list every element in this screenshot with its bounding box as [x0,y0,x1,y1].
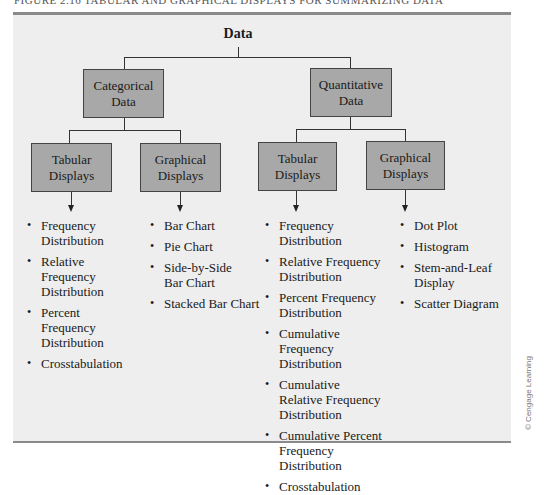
node-label: Data [94,94,154,110]
connector [296,191,297,206]
node-label: Displays [380,166,431,182]
connector [180,130,181,143]
node-quantitative-tabular-displays: TabularDisplays [258,142,337,191]
quantitative-tabular-list: Frequency Distribution Relative Frequenc… [263,218,383,495]
node-categorical-graphical-displays: GraphicalDisplays [140,143,221,192]
connector [405,190,406,206]
connector [69,130,181,131]
arrow-down-icon [293,205,299,212]
connector [238,47,239,57]
connector [180,192,181,206]
node-label: Graphical [155,152,206,168]
quantitative-graphical-list: Dot Plot Histogram Stem-and-Leaf Display… [398,218,523,317]
connector [296,129,406,130]
list-item: Dot Plot [398,218,523,233]
node-label: Displays [275,167,321,183]
node-categorical-tabular-displays: TabularDisplays [31,143,112,192]
list-item: Cumulative Percent Frequency Distributio… [263,428,383,473]
connector [124,118,125,130]
list-item: Cumulative Frequency Distribution [263,326,383,371]
node-categorical-data: CategoricalData [83,69,164,118]
node-label: Displays [155,168,206,184]
node-label: Categorical [94,78,154,94]
connector [124,57,125,69]
root-node-data: Data [0,26,476,42]
credit-text: © Cengage Learning [524,356,533,430]
node-label: Displays [49,168,95,184]
list-item: Crosstabulation [25,356,135,371]
figure-caption: FIGURE 2.16 TABULAR AND GRAPHICAL DISPLA… [14,0,443,6]
node-label: Graphical [380,150,431,166]
node-label: Quantitative [319,77,383,93]
list-item: Percent Frequency Distribution [263,290,383,320]
arrow-down-icon [68,205,74,212]
connector [296,129,297,142]
connector [405,129,406,141]
categorical-graphical-list: Bar Chart Pie Chart Side-by-Side Bar Cha… [148,218,260,317]
connector [350,57,351,68]
connector [69,130,70,143]
arrow-down-icon [177,205,183,212]
categorical-tabular-list: Frequency Distribution Relative Frequenc… [25,218,135,377]
node-quantitative-graphical-displays: GraphicalDisplays [366,141,445,190]
list-item: Stem-and-Leaf Display [398,260,523,290]
node-label: Tabular [49,152,95,168]
node-label: Data [319,93,383,109]
list-item: Bar Chart [148,218,260,233]
list-item: Percent Frequency Distribution [25,305,135,350]
list-item: Frequency Distribution [25,218,135,248]
list-item: Side-by-Side Bar Chart [148,260,234,290]
list-item: Frequency Distribution [263,218,349,248]
list-item: Histogram [398,239,523,254]
node-label: Tabular [275,151,321,167]
bottom-rule [13,441,511,443]
list-item: Cumulative Relative Frequency Distributi… [263,377,383,422]
arrow-down-icon [402,205,408,212]
list-item: Stacked Bar Chart [148,296,260,311]
list-item: Scatter Diagram [398,296,523,311]
node-quantitative-data: QuantitativeData [310,68,392,117]
connector [124,57,351,58]
list-item: Relative Frequency Distribution [263,254,383,284]
connector [350,117,351,129]
list-item: Relative Frequency Distribution [25,254,135,299]
connector [71,192,72,206]
list-item: Pie Chart [148,239,260,254]
list-item: Crosstabulation [263,479,383,494]
